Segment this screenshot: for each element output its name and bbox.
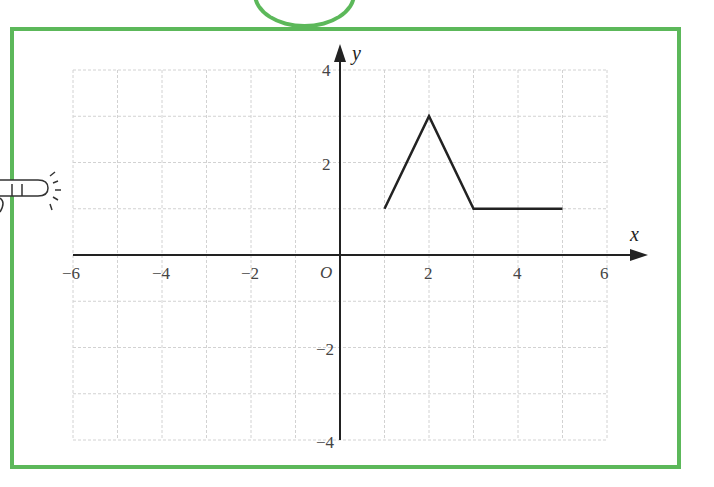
origin-label: O: [320, 263, 332, 282]
x-tick: −4: [152, 264, 171, 283]
axes: [73, 58, 636, 440]
y-tick: −4: [316, 433, 335, 452]
x-axis-arrow-icon: [630, 249, 648, 261]
y-axis-label: y: [350, 42, 361, 65]
y-tick: −2: [316, 340, 334, 359]
coordinate-plane: x y O −6 −4 −2 2 4 6 4 2 −2 −4: [0, 0, 714, 487]
y-tick: 4: [322, 61, 331, 80]
x-tick: −2: [241, 264, 259, 283]
y-axis-arrow-icon: [334, 44, 346, 62]
y-tick: 2: [322, 155, 331, 174]
x-tick: 4: [513, 264, 522, 283]
x-tick: 2: [424, 264, 433, 283]
pointing-hand-icon: [0, 172, 61, 212]
x-tick: −6: [62, 264, 80, 283]
x-axis-label: x: [629, 223, 639, 245]
x-tick: 6: [600, 264, 609, 283]
